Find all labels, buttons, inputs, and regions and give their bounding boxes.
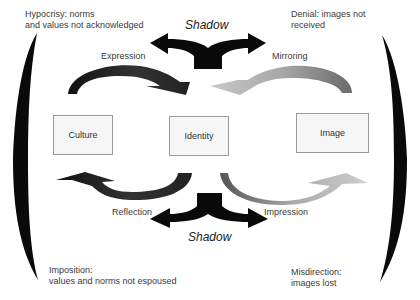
shadow-bottom-label: Shadow <box>188 230 231 244</box>
identity-box: Identity <box>169 116 229 156</box>
shadow-top-label: Shadow <box>185 18 228 32</box>
image-box: Image <box>296 113 369 153</box>
reflection-label: Reflection <box>112 207 152 218</box>
impression-label: Impression <box>264 207 308 218</box>
mirroring-label: Mirroring <box>272 51 308 62</box>
mirroring-arrow <box>210 66 352 95</box>
expression-arrow <box>68 65 190 95</box>
culture-label: Culture <box>68 130 97 140</box>
imposition-line-2: values and norms not espoused <box>49 276 177 287</box>
hypocrisy-note: Hypocrisy: norms and values not acknowle… <box>25 9 144 31</box>
misdirection-line-2: images lost <box>291 278 342 289</box>
image-label: Image <box>320 128 345 138</box>
denial-note: Denial: images not received <box>291 9 366 31</box>
right-bracket <box>380 35 407 282</box>
left-bracket <box>13 33 38 280</box>
identity-label: Identity <box>184 131 213 141</box>
reflection-arrow <box>56 172 192 200</box>
impression-arrow <box>220 173 368 205</box>
hypocrisy-line-1: Hypocrisy: norms <box>25 9 144 20</box>
denial-line-2: received <box>291 20 366 31</box>
imposition-line-1: Imposition: <box>49 265 177 276</box>
shadow-top-arrow <box>150 33 266 69</box>
culture-box: Culture <box>53 115 113 155</box>
organizational-identity-diagram: Hypocrisy: norms and values not acknowle… <box>0 0 420 300</box>
denial-line-1: Denial: images not <box>291 9 366 20</box>
expression-label: Expression <box>101 51 146 62</box>
hypocrisy-line-2: and values not acknowledged <box>25 20 144 31</box>
misdirection-note: Misdirection: images lost <box>291 267 342 289</box>
misdirection-line-1: Misdirection: <box>291 267 342 278</box>
imposition-note: Imposition: values and norms not espouse… <box>49 265 177 287</box>
